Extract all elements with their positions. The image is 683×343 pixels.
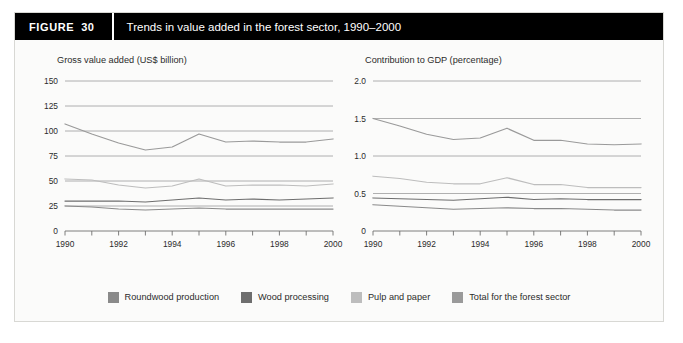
legend-item-pulp-and-paper: Pulp and paper	[351, 292, 430, 303]
legend-label: Pulp and paper	[368, 292, 430, 302]
line-chart-right: 00.51.01.52.0199019921994199619982000	[341, 73, 651, 263]
x-tick-label: 1996	[216, 239, 235, 249]
chart-panel-gross-value-added: Gross value added (US$ billion) 02550751…	[33, 55, 343, 270]
y-tick-label: 0	[361, 226, 366, 236]
figure-root: FIGURE 30 Trends in value added in the f…	[0, 0, 683, 343]
y-tick-label: 150	[44, 76, 58, 86]
y-tick-label: 0	[53, 226, 58, 236]
series-line	[65, 124, 333, 150]
y-tick-label: 125	[44, 101, 58, 111]
figure-number: 30	[74, 21, 94, 33]
series-line	[65, 206, 333, 210]
figure-title-bar: FIGURE 30 Trends in value added in the f…	[15, 13, 663, 40]
x-tick-label: 1994	[163, 239, 182, 249]
x-tick-label: 1990	[364, 239, 383, 249]
plot-area-left: 0255075100125150199019921994199619982000	[33, 73, 343, 263]
series-line	[65, 198, 333, 202]
legend-swatch-icon	[351, 292, 362, 303]
y-tick-label: 1.0	[354, 151, 366, 161]
y-tick-label: 1.5	[354, 114, 366, 124]
y-tick-label: 25	[49, 201, 59, 211]
y-tick-label: 75	[49, 151, 59, 161]
series-line	[65, 179, 333, 188]
chart-title-left: Gross value added (US$ billion)	[57, 55, 187, 65]
y-tick-label: 100	[44, 126, 58, 136]
x-tick-label: 2000	[324, 239, 343, 249]
figure-title: Trends in value added in the forest sect…	[114, 21, 401, 33]
x-tick-label: 1992	[109, 239, 128, 249]
x-tick-label: 1998	[578, 239, 597, 249]
legend-item-total-forest-sector: Total for the forest sector	[452, 292, 570, 303]
x-tick-label: 1996	[524, 239, 543, 249]
x-tick-label: 1998	[270, 239, 289, 249]
legend-swatch-icon	[108, 292, 119, 303]
plot-area-right: 00.51.01.52.0199019921994199619982000	[341, 73, 651, 263]
legend-label: Roundwood production	[125, 292, 220, 302]
chart-legend: Roundwood production Wood processing Pul…	[15, 285, 663, 309]
chart-title-right: Contribution to GDP (percentage)	[365, 55, 502, 65]
series-line	[373, 197, 641, 200]
x-tick-label: 1994	[471, 239, 490, 249]
x-tick-label: 2000	[632, 239, 651, 249]
x-tick-label: 1990	[56, 239, 75, 249]
figure-label: FIGURE	[15, 21, 74, 33]
series-line	[373, 205, 641, 210]
legend-label: Total for the forest sector	[469, 292, 570, 302]
y-tick-label: 0.5	[354, 189, 366, 199]
figure-frame: FIGURE 30 Trends in value added in the f…	[14, 12, 664, 322]
legend-swatch-icon	[241, 292, 252, 303]
series-line	[373, 176, 641, 187]
chart-panel-contribution-to-gdp: Contribution to GDP (percentage) 00.51.0…	[341, 55, 651, 270]
y-tick-label: 50	[49, 176, 59, 186]
legend-swatch-icon	[452, 292, 463, 303]
x-tick-label: 1992	[417, 239, 436, 249]
y-tick-label: 2.0	[354, 76, 366, 86]
legend-label: Wood processing	[258, 292, 329, 302]
legend-item-wood-processing: Wood processing	[241, 292, 329, 303]
series-line	[373, 119, 641, 145]
line-chart-left: 0255075100125150199019921994199619982000	[33, 73, 343, 263]
legend-item-roundwood-production: Roundwood production	[108, 292, 220, 303]
